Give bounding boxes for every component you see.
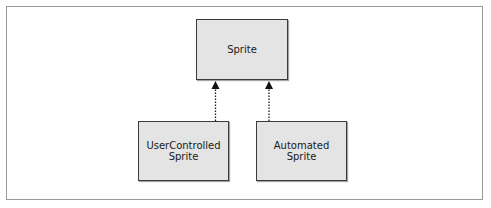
node-label-line-1: Automated [274,140,330,151]
node-label: Sprite [227,44,257,55]
node-label-line-1: UserControlled [146,140,220,151]
node-label-line-2: Sprite [169,151,199,162]
node-sprite: Sprite [196,19,288,80]
node-user-controlled-sprite: UserControlled Sprite [138,121,229,181]
node-automated-sprite: Automated Sprite [256,121,347,181]
node-label-line-2: Sprite [287,151,317,162]
